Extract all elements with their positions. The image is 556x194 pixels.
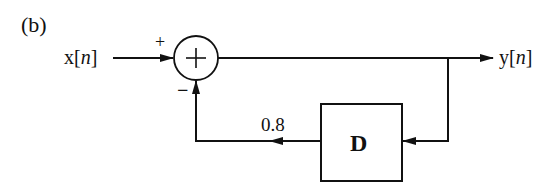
gain-label: 0.8 bbox=[261, 115, 285, 134]
block-diagram bbox=[0, 0, 556, 194]
feedback-to-delay bbox=[403, 58, 448, 141]
plus-sign-label: + bbox=[155, 33, 165, 51]
output-label: y[n] bbox=[499, 47, 532, 67]
delay-label: D bbox=[350, 131, 367, 155]
panel-label: (b) bbox=[21, 14, 47, 36]
minus-sign-label: − bbox=[177, 80, 188, 100]
input-label: x[n] bbox=[64, 47, 97, 67]
